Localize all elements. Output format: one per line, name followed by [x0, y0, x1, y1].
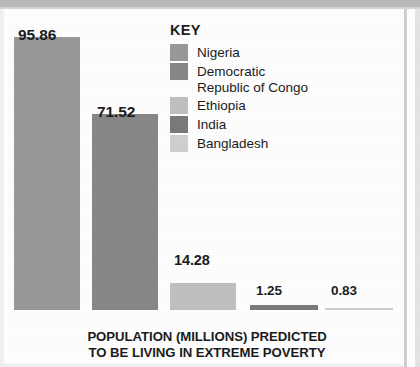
scan-band-top: [0, 0, 420, 9]
legend-swatch-bangladesh: [170, 135, 188, 152]
bar-value-nigeria: 95.86: [18, 26, 56, 44]
chart-canvas: 95.8671.5214.281.250.83 KEY Nigeria Demo…: [4, 11, 404, 364]
scan-edge-right: [404, 9, 407, 367]
bar-value-bangladesh: 0.83: [331, 283, 357, 298]
chart-caption: POPULATION (MILLIONS) PREDICTED TO BE LI…: [14, 329, 400, 360]
legend-label-bangladesh: Bangladesh: [197, 135, 268, 152]
legend-item-democratic-republic-of-congo[interactable]: Democratic Republic of Congo: [170, 63, 402, 95]
bar-value-india: 1.25: [256, 283, 282, 298]
legend: KEY Nigeria Democratic Republic of Congo…: [170, 22, 402, 154]
legend-item-nigeria[interactable]: Nigeria: [170, 44, 402, 61]
scan-edge-right-outer: [415, 9, 420, 367]
bar-democratic-republic-of-congo: [92, 114, 158, 310]
legend-title: KEY: [170, 22, 402, 38]
legend-swatch-nigeria: [170, 44, 188, 61]
legend-swatch-ethiopia: [170, 97, 188, 114]
legend-item-india[interactable]: India: [170, 116, 402, 133]
bar-bangladesh: [325, 308, 393, 310]
legend-swatch-india: [170, 116, 188, 133]
legend-item-ethiopia[interactable]: Ethiopia: [170, 97, 402, 114]
caption-line-1: POPULATION (MILLIONS) PREDICTED: [14, 329, 400, 345]
legend-label-democratic-republic-of-congo: Democratic Republic of Congo: [197, 63, 308, 95]
bar-ethiopia: [170, 283, 236, 310]
bar-nigeria: [14, 37, 80, 310]
bar-value-ethiopia: 14.28: [174, 252, 210, 268]
bar-value-democratic-republic-of-congo: 71.52: [97, 103, 135, 121]
legend-label-nigeria: Nigeria: [197, 44, 240, 61]
legend-item-bangladesh[interactable]: Bangladesh: [170, 135, 402, 152]
bar-india: [250, 305, 318, 310]
legend-label-ethiopia: Ethiopia: [197, 97, 246, 114]
caption-line-2: TO BE LIVING IN EXTREME POVERTY: [14, 345, 400, 361]
legend-swatch-democratic-republic-of-congo: [170, 63, 188, 80]
figure-scan: 95.8671.5214.281.250.83 KEY Nigeria Demo…: [0, 0, 420, 367]
legend-label-india: India: [197, 116, 226, 133]
